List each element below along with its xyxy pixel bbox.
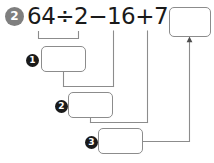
step-2-answer-box[interactable]	[68, 92, 113, 118]
step-marker-1: 1	[26, 54, 39, 67]
step-1-answer-value	[42, 47, 85, 71]
arrowhead-into-answer	[187, 37, 193, 43]
equation-token-divide: ÷	[55, 2, 74, 30]
step-3-answer-value	[99, 129, 142, 153]
equation-token-minus: −	[88, 2, 107, 30]
equation-token-operand-1: 64	[27, 2, 55, 30]
problem-number-badge: 2	[5, 7, 24, 26]
worksheet-canvas: 2 64÷2−16+7= 1 2 3	[0, 0, 214, 163]
equation-token-operand-4: 7	[154, 2, 168, 30]
step-3-answer-box[interactable]	[98, 128, 143, 154]
final-answer-value	[170, 8, 210, 36]
final-answer-box[interactable]	[169, 7, 211, 37]
equation-text: 64÷2−16+7=	[27, 2, 187, 30]
step-2-answer-value	[69, 93, 112, 117]
equation-token-plus: +	[135, 2, 154, 30]
equation-token-operand-2: 2	[74, 2, 88, 30]
step-1-answer-box[interactable]	[41, 46, 86, 72]
step-marker-3: 3	[85, 136, 98, 149]
bracket-under-64div2	[39, 32, 79, 39]
equation-token-operand-3: 16	[107, 2, 135, 30]
step-marker-2: 2	[55, 100, 68, 113]
connector-step3-to-answer	[143, 40, 190, 142]
